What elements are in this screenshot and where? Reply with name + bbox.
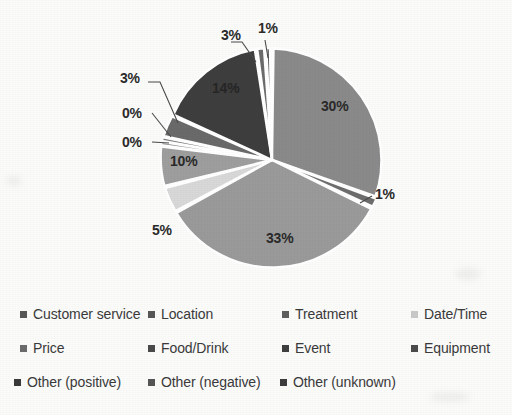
pie-label-location: 1%: [375, 186, 395, 202]
legend-swatch-icon: [282, 311, 289, 318]
legend-swatch-icon: [148, 379, 155, 386]
pie-label-date-time: 5%: [152, 222, 172, 238]
legend-swatch-icon: [20, 311, 27, 318]
legend-swatch-icon: [148, 345, 155, 352]
pie-label-other-negative: 3%: [221, 27, 241, 43]
legend-label: Other (positive): [27, 374, 121, 390]
chart-legend: Customer service Location Treatment Date…: [0, 302, 512, 415]
pie-label-other-positive: 14%: [212, 80, 239, 96]
legend-row-1: Customer service Location Treatment Date…: [0, 306, 512, 336]
legend-label: Equipment: [424, 340, 490, 356]
legend-label: Date/Time: [424, 306, 487, 322]
legend-label: Other (negative): [161, 374, 261, 390]
legend-item-customer-service[interactable]: Customer service: [20, 306, 140, 322]
pie-label-equipment: 3%: [120, 70, 140, 86]
legend-item-location[interactable]: Location: [148, 306, 213, 322]
legend-row-3: Other (positive) Other (negative) Other …: [0, 374, 512, 404]
legend-label: Price: [33, 340, 64, 356]
legend-label: Treatment: [295, 306, 357, 322]
legend-label: Customer service: [33, 306, 140, 322]
legend-swatch-icon: [14, 379, 21, 386]
legend-item-other-positive[interactable]: Other (positive): [14, 374, 121, 390]
legend-item-price[interactable]: Price: [20, 340, 64, 356]
legend-swatch-icon: [280, 379, 287, 386]
legend-item-event[interactable]: Event: [282, 340, 330, 356]
pie-svg: [0, 0, 512, 300]
pie-label-other-unknown: 1%: [258, 20, 278, 36]
legend-item-equipment[interactable]: Equipment: [411, 340, 490, 356]
legend-label: Food/Drink: [161, 340, 228, 356]
legend-swatch-icon: [411, 345, 418, 352]
legend-item-other-negative[interactable]: Other (negative): [148, 374, 261, 390]
legend-swatch-icon: [20, 345, 27, 352]
legend-label: Other (unknown): [293, 374, 396, 390]
pie-label-price: 10%: [170, 153, 197, 169]
legend-item-date-time[interactable]: Date/Time: [411, 306, 487, 322]
leader-line-food-drink: [152, 142, 169, 143]
legend-swatch-icon: [148, 311, 155, 318]
legend-swatch-icon: [411, 311, 418, 318]
legend-swatch-icon: [282, 345, 289, 352]
legend-label: Location: [161, 306, 213, 322]
legend-item-other-unknown[interactable]: Other (unknown): [280, 374, 396, 390]
pie-chart: 30% 1% 33% 5% 10% 0% 0% 3% 14% 3% 1%: [0, 0, 512, 300]
pie-label-treatment: 33%: [266, 230, 293, 246]
legend-item-food-drink[interactable]: Food/Drink: [148, 340, 228, 356]
pie-label-event: 0%: [122, 105, 142, 121]
legend-label: Event: [295, 340, 330, 356]
pie-label-customer-service: 30%: [321, 98, 348, 114]
legend-row-2: Price Food/Drink Event Equipment: [0, 340, 512, 370]
legend-item-treatment[interactable]: Treatment: [282, 306, 357, 322]
pie-label-food-drink: 0%: [122, 134, 142, 150]
chart-page: 30% 1% 33% 5% 10% 0% 0% 3% 14% 3% 1% Cus…: [0, 0, 512, 415]
